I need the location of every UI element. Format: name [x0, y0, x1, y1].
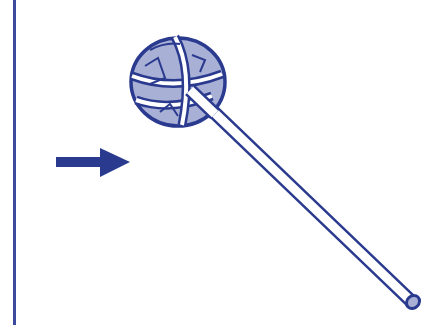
swab-head [131, 37, 225, 126]
swab-diagram [0, 0, 443, 325]
swab-handle [196, 95, 422, 311]
arrow-right-icon [56, 148, 130, 177]
